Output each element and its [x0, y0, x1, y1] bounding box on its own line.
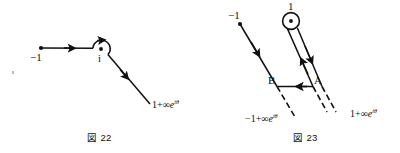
fig23-point-b-label: B — [268, 75, 275, 86]
fig23-outer-right-ray-arrow — [305, 46, 312, 63]
fig23-contour — [238, 13, 336, 117]
fig23-left-ray-end-prefix: −1+∞ — [245, 113, 268, 124]
fig22-ray-end-prefix: 1+∞ — [152, 99, 170, 110]
fig22-diagonal-ray-arrow — [120, 70, 128, 79]
fig22-pole-label: i — [98, 53, 101, 64]
fig22-contour — [39, 40, 150, 104]
fig22-ray-end-label: 1+∞eiθ — [152, 99, 179, 110]
fig23-left-ray-arrow — [251, 42, 259, 56]
fig23-pole-dot — [289, 19, 293, 23]
fig23-left-ray-end-exponent: iθ — [273, 112, 278, 119]
fig22-left-endpoint-label: −1 — [30, 52, 42, 63]
figure-22-drawing — [0, 0, 400, 153]
fig23-right-ray-end-exponent: iθ — [372, 107, 377, 114]
fig23-left-ray-end-label: −1+∞eiθ — [245, 113, 278, 124]
fig23-caption: 図 23 — [293, 130, 318, 144]
fig23-point-a-label: A — [314, 75, 322, 86]
fig22-loop-top-arrow — [98, 40, 105, 41]
fig23-inner-right-ray-arrow — [301, 59, 308, 74]
fig23-right-ray-end-label: 1+∞eiθ — [350, 108, 377, 119]
fig23-left-ray-start-label: −1 — [228, 10, 240, 21]
fig22-diagonal-ray — [108, 55, 150, 104]
fig23-left-ray-dashed — [277, 87, 295, 118]
fig22-ray-end-exponent: iθ — [174, 98, 179, 105]
fig23-pole-label: 1 — [288, 1, 294, 12]
fig23-right-ray-end-prefix: 1+∞ — [350, 108, 368, 119]
fig22-pole-dot — [99, 47, 103, 51]
fig22-caption: 図 22 — [87, 130, 112, 144]
figure-sheet: −1 i 1+∞eiθ 図 22 −1 1 A B −1+∞eiθ 1+∞eiθ… — [0, 0, 400, 153]
